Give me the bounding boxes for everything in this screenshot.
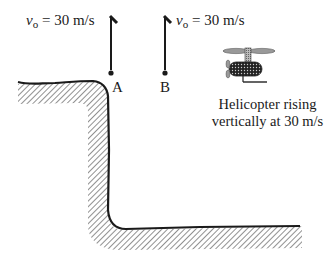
point-b-label: B — [160, 80, 170, 95]
point-a-label: A — [112, 80, 123, 95]
helicopter-caption: Helicopter rising vertically at 30 m/s — [205, 96, 330, 130]
velocity-symbol: v — [176, 12, 183, 28]
velocity-value: = 30 m/s — [188, 12, 244, 28]
velocity-value: = 30 m/s — [38, 12, 94, 28]
helicopter-icon — [223, 48, 275, 82]
velocity-label-a: vo = 30 m/s — [26, 13, 95, 30]
diagram-canvas — [0, 0, 335, 260]
velocity-symbol: v — [26, 12, 33, 28]
point-a-dot — [108, 70, 113, 75]
caption-line-1: Helicopter rising — [205, 96, 330, 113]
velocity-label-b: vo = 30 m/s — [176, 13, 245, 30]
point-b-dot — [162, 70, 167, 75]
velocity-arrow-a — [108, 16, 117, 76]
velocity-arrow-b — [162, 16, 171, 76]
caption-line-2: vertically at 30 m/s — [205, 113, 330, 130]
